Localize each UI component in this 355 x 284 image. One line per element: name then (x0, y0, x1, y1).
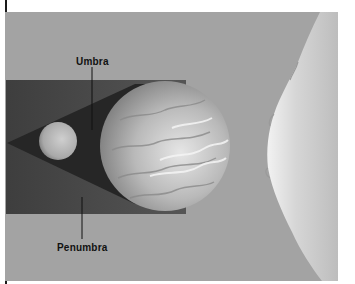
umbra-label: Umbra (76, 56, 109, 67)
penumbra-label: Penumbra (57, 242, 108, 253)
moon-globe (39, 122, 77, 160)
sun-limb (267, 12, 338, 281)
eclipse-diagram (0, 0, 355, 284)
